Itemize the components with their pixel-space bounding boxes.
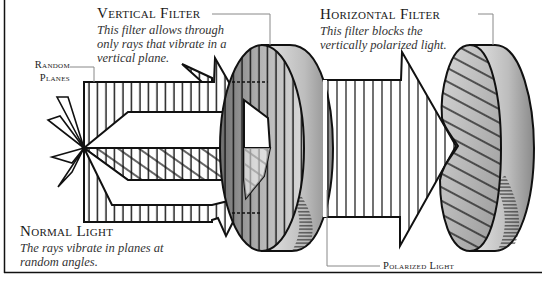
polarized-light-ray: [325, 52, 456, 246]
vertical-filter-title: Vertical Filter: [97, 6, 227, 22]
horizontal-filter-title: Horizontal Filter: [320, 7, 447, 23]
random-planes-label: Random Planes: [20, 58, 70, 84]
vertical-filter: [220, 45, 333, 255]
vertical-filter-label: Vertical Filter This filter allows throu…: [97, 6, 227, 65]
horizontal-filter-label: Horizontal Filter This filter blocks the…: [320, 7, 447, 52]
horizontal-filter-description: This filter blocks the vertically polari…: [320, 24, 447, 52]
normal-light-description: The rays vibrate in planes at random ang…: [20, 241, 163, 269]
normal-light-title: Normal Light: [20, 224, 163, 240]
normal-light-label: Normal Light The rays vibrate in planes …: [20, 224, 163, 269]
polarized-light-label: Polarized Light: [383, 259, 454, 272]
vertical-filter-description: This filter allows through only rays tha…: [97, 23, 227, 65]
